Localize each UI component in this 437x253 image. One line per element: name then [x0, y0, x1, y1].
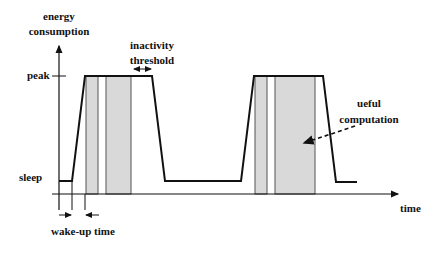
computation-block — [86, 76, 98, 194]
energy-diagram: energy consumption peak sleep inactivity… — [0, 0, 437, 253]
inactivity-threshold-label: threshold — [130, 54, 174, 66]
x-axis-label: time — [400, 202, 421, 214]
inactivity-threshold-label: inactivity — [130, 39, 174, 51]
computation-block — [106, 76, 131, 194]
wakeup-time-label: wake-up time — [51, 225, 115, 237]
y-axis-label: consumption — [29, 25, 90, 37]
computation-block — [275, 76, 315, 194]
sleep-label: sleep — [19, 171, 42, 183]
computation-block — [255, 76, 267, 194]
useful-computation-label: computation — [339, 113, 398, 125]
useful-computation-label: ueful — [357, 97, 381, 109]
y-axis-label: energy — [43, 10, 75, 22]
peak-label: peak — [27, 69, 51, 81]
